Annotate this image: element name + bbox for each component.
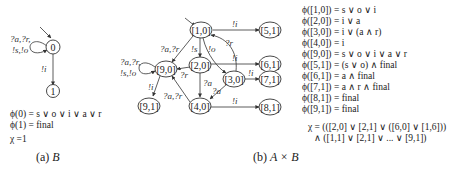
formula-line: ϕ([3,0]) = i ∨ (a ∧ r) [302, 27, 407, 38]
svg-text:[6,1]: [6,1] [260, 59, 279, 70]
formula-line: ϕ([2,0]) = i ∨ a [302, 16, 407, 27]
svg-text:[5,1]: [5,1] [260, 25, 279, 36]
state-label: 1 [51, 86, 56, 97]
chi-b: χ = (([2,0] ∨ [2,1] ∨ ([6,0] ∨ [1,6])) ∧… [308, 122, 446, 144]
state-node-3-0: [3,0] [223, 71, 245, 87]
svg-text:[9,1]: [9,1] [139, 101, 158, 112]
edge-label: !s [191, 44, 198, 54]
formula-line: ϕ([7,1]) = a ∧ r ∧ final [302, 82, 407, 93]
formula-line: ϕ([8,1]) = final [302, 93, 407, 104]
edge-label: !i [232, 19, 238, 29]
transition-edge [177, 67, 190, 69]
formula-line: ϕ([4,0]) = i [302, 38, 407, 49]
svg-text:[4,0]: [4,0] [190, 101, 209, 112]
state-node-8-1: [8,1] [259, 99, 281, 115]
initial-arrow-icon [40, 27, 51, 38]
chi-line: χ = (([2,0] ∨ [2,1] ∨ ([6,0] ∨ [1,6])) [308, 122, 446, 133]
caption-a: (a) B [36, 150, 60, 165]
svg-text:[2,0]: [2,0] [190, 60, 209, 71]
diagram-b: !i !s !o ?r ?a,?r ?r !i ?a ?a !i !i ?a,?… [120, 18, 281, 115]
state-label: 0 [51, 42, 56, 53]
edge-label: !o [208, 44, 216, 54]
formula-line: ϕ(0) = s ∨ o ∨ i ∨ a ∨ r [10, 109, 101, 120]
caption-b: (b) A × B [253, 150, 299, 165]
edge-label: ?r [180, 70, 189, 80]
state-node-9-1: [9,1] [138, 98, 160, 114]
state-node-6-1: [6,1] [259, 56, 281, 72]
formula-line: ϕ(1) = final [10, 120, 101, 131]
edge-label: !i [248, 68, 254, 78]
state-node-4-0: [4,0] [189, 98, 211, 114]
chi-line: χ =1 [10, 134, 101, 145]
svg-text:[9,0]: [9,0] [156, 64, 175, 75]
edge-label: !i [232, 96, 238, 106]
formula-line: ϕ([9,1]) = final [302, 104, 407, 115]
edge-label: !s,!o [12, 45, 29, 55]
self-loop-edge [139, 63, 155, 74]
edge-label: !s,!o [120, 68, 137, 78]
edge-label: ?a,?r [163, 91, 183, 101]
self-loop-edge [30, 42, 48, 53]
state-node-7-1: [7,1] [259, 71, 281, 87]
formulas-a: ϕ(0) = s ∨ o ∨ i ∨ a ∨ r ϕ(1) = final χ … [10, 109, 101, 145]
state-node-2-0: [2,0] [189, 57, 211, 73]
state-node-9-0: [9,0] [155, 61, 177, 77]
state-node-1-0: [1,0] [190, 22, 212, 38]
formula-line: ϕ([1,0]) = s ∨ o ∨ i [302, 5, 407, 16]
svg-text:[8,1]: [8,1] [260, 102, 279, 113]
transition-edge [153, 76, 160, 96]
formulas-b: ϕ([1,0]) = s ∨ o ∨ i ϕ([2,0]) = i ∨ a ϕ(… [302, 5, 407, 115]
edge-label: ?r [225, 38, 234, 48]
svg-text:[3,0]: [3,0] [224, 74, 243, 85]
edge-label: !i [232, 53, 238, 63]
edge-label: ?a,?r [160, 44, 180, 54]
diagram-a: ?a,?r, !s,!o 0 !i 1 [10, 27, 60, 98]
edge-label: !i [148, 82, 154, 92]
edge-label: ?a [212, 86, 222, 96]
svg-text:[1,0]: [1,0] [191, 25, 210, 36]
edge-label: !i [41, 64, 47, 74]
edge-label: ?a,?r, [10, 34, 31, 44]
formula-line: ϕ([6,1]) = a ∧ final [302, 71, 407, 82]
formula-line: ϕ([9,0]) = s ∨ o ∨ i ∨ a ∨ r [302, 49, 407, 60]
state-node-5-1: [5,1] [259, 22, 281, 38]
svg-text:[7,1]: [7,1] [260, 74, 279, 85]
formula-line: ϕ([5,1]) = (s ∨ o) ∧ final [302, 60, 407, 71]
chi-line: ∧ ([1,1] ∨ [2,1] ∨ ... ∨ [9,1]) [308, 133, 446, 144]
edge-label: ?a,?r, [120, 57, 141, 67]
